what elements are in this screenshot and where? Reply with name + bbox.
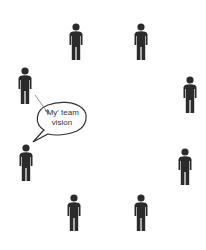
person-icon-top-right — [133, 23, 149, 61]
person-icon-top-left — [68, 23, 84, 61]
person-icon-right-upper — [182, 76, 198, 114]
person-icon-right-lower — [177, 148, 193, 186]
person-icon-bottom-right — [133, 194, 149, 232]
bubble-label-line2: vision — [40, 118, 84, 128]
bubble-label-line1: 'My' team — [40, 108, 84, 118]
person-icon-left-upper — [17, 67, 33, 105]
person-icon-left-lower — [18, 144, 34, 182]
speech-bubble — [0, 0, 206, 250]
person-icon-bottom-left — [66, 194, 82, 232]
bubble-label: 'My' team vision — [40, 108, 84, 128]
